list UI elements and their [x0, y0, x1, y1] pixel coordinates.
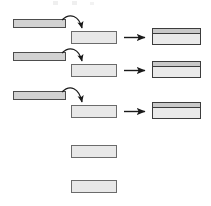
middle-box-3[interactable] [72, 106, 117, 118]
diagram-svg [0, 0, 211, 206]
result-box-3[interactable] [153, 103, 201, 119]
source-bar-3[interactable] [14, 92, 66, 100]
result-box-1[interactable] [153, 29, 201, 45]
diagram-row-1 [14, 16, 201, 45]
middle-box-2[interactable] [72, 65, 117, 77]
diagram-row-2 [14, 49, 201, 78]
top-artifact-marks [53, 1, 94, 5]
source-bar-1[interactable] [14, 20, 66, 28]
middle-box-4[interactable] [72, 146, 117, 158]
source-bar-2[interactable] [14, 53, 66, 61]
middle-box-1[interactable] [72, 32, 117, 44]
diagram-row-3 [14, 88, 201, 119]
middle-box-5[interactable] [72, 181, 117, 193]
diagram-canvas [0, 0, 211, 206]
result-box-2[interactable] [153, 62, 201, 78]
